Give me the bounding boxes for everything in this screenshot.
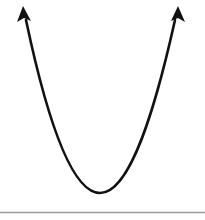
left-arrowhead-icon [17,6,31,22]
right-arrowhead-icon [171,6,185,22]
parabola-curve [26,20,175,193]
parabola-diagram [0,0,205,220]
